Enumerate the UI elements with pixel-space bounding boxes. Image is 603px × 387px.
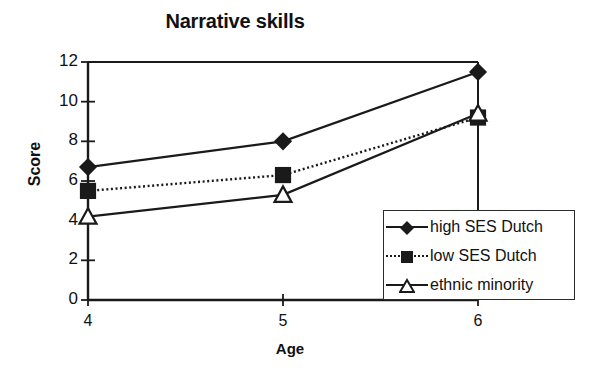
legend-sample-high-ses-dutch (384, 212, 430, 242)
filled-square-icon (399, 249, 415, 265)
data-point-4 (80, 159, 96, 175)
legend-label-high-ses-dutch: high SES Dutch (430, 218, 543, 236)
legend-item-low-ses-dutch[interactable]: low SES Dutch (384, 241, 576, 271)
legend-item-ethnic-minority[interactable]: ethnic minority (384, 270, 576, 300)
legend-item-high-ses-dutch[interactable]: high SES Dutch (384, 212, 576, 242)
data-point-5 (275, 133, 291, 149)
open-triangle-icon (399, 278, 415, 294)
chart-figure: Narrative skills Score Age 12 10 8 6 4 2… (0, 0, 603, 387)
filled-diamond-icon (399, 220, 415, 236)
legend-label-ethnic-minority: ethnic minority (430, 276, 533, 294)
data-point-5 (275, 186, 292, 202)
series-high-ses-dutch (80, 64, 486, 175)
legend-sample-ethnic-minority (384, 270, 430, 300)
series-layer (80, 64, 487, 224)
legend-label-low-ses-dutch: low SES Dutch (430, 247, 537, 265)
data-point-5 (276, 168, 291, 183)
legend-sample-low-ses-dutch (384, 241, 430, 271)
data-point-6 (470, 64, 486, 80)
series-line (88, 72, 478, 167)
series-ethnic-minority (80, 105, 487, 224)
plot-canvas (0, 0, 603, 387)
data-point-4 (81, 183, 96, 198)
legend: high SES Dutch low SES Dutch ethnic mino… (383, 210, 575, 300)
